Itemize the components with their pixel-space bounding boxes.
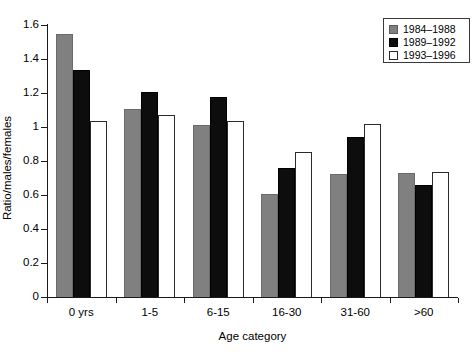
- legend-swatch-icon: [389, 51, 398, 60]
- y-axis-tick-label: 0.2: [0, 257, 39, 269]
- x-axis-tick: [390, 298, 391, 303]
- y-axis-tick: [41, 127, 47, 128]
- x-axis-tick: [116, 298, 117, 303]
- y-axis-line: [47, 24, 48, 298]
- bar-chart-figure: Ratio/males/females 00.20.40.60.811.21.4…: [0, 0, 472, 356]
- legend-item-label: 1984–1988: [403, 24, 456, 35]
- bar: [124, 109, 141, 298]
- y-axis-tick-label: 0: [0, 291, 39, 303]
- x-axis-tick: [253, 298, 254, 303]
- y-axis-tick: [41, 229, 47, 230]
- bar: [398, 173, 415, 298]
- bar: [364, 124, 381, 298]
- y-axis-tick-label: 0.6: [0, 189, 39, 201]
- legend-item-label: 1993–1996: [403, 50, 456, 61]
- legend: 1984–19881989–19921993–1996: [383, 18, 470, 63]
- y-axis-tick: [41, 93, 47, 94]
- y-axis-tick: [41, 59, 47, 60]
- y-axis-tick-label: 1: [0, 121, 39, 133]
- y-axis-tick-label: 0.8: [0, 155, 39, 167]
- bar: [432, 172, 449, 298]
- bar: [227, 121, 244, 298]
- bar: [193, 125, 210, 298]
- bar: [73, 70, 90, 298]
- bar: [415, 185, 432, 298]
- bar: [347, 137, 364, 298]
- legend-item-label: 1989–1992: [403, 37, 456, 48]
- bar: [158, 115, 175, 298]
- bar: [90, 121, 107, 298]
- y-axis-tick-label: 1.2: [0, 87, 39, 99]
- x-axis-tick: [47, 298, 48, 303]
- bar: [330, 174, 347, 298]
- x-axis-title: Age category: [47, 330, 458, 343]
- legend-item: 1984–1988: [389, 23, 465, 35]
- y-axis-tick-label: 0.4: [0, 223, 39, 235]
- legend-item: 1989–1992: [389, 36, 465, 48]
- y-axis-tick-label: 1.4: [0, 53, 39, 65]
- x-axis-tick: [458, 298, 459, 303]
- x-axis-tick: [184, 298, 185, 303]
- bar: [278, 168, 295, 298]
- legend-item: 1993–1996: [389, 49, 465, 61]
- bar: [210, 97, 227, 298]
- y-axis-tick-label: 1.6: [0, 19, 39, 31]
- bar: [295, 152, 312, 298]
- y-axis-tick: [41, 25, 47, 26]
- bar: [56, 34, 73, 298]
- bar: [261, 194, 278, 298]
- y-axis-tick: [41, 263, 47, 264]
- y-axis-tick: [41, 195, 47, 196]
- legend-swatch-icon: [389, 25, 398, 34]
- x-axis-tick-label: >60: [384, 306, 464, 319]
- x-axis-tick: [321, 298, 322, 303]
- legend-swatch-icon: [389, 38, 398, 47]
- y-axis-tick: [41, 161, 47, 162]
- bar: [141, 92, 158, 298]
